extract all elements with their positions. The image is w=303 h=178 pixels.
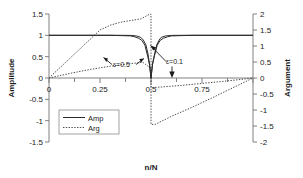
y-tick-label: -0.5 xyxy=(29,95,43,104)
y2-tick-label: 0.5 xyxy=(260,58,272,67)
chart-figure: 1.5 1 0.5 0 -0.5 -1 -1.5 Amplitude 2 1.5… xyxy=(0,0,303,178)
series-arg-eps-05 xyxy=(49,14,253,124)
y-tick-label: 1.5 xyxy=(32,10,44,19)
y2-tick-label: -2 xyxy=(260,138,268,147)
y-tick-label: 0 xyxy=(39,74,44,83)
y2-tick-label: -1 xyxy=(260,106,268,115)
y-tick-label: 1 xyxy=(39,31,44,40)
y2-tick-label: 1.5 xyxy=(260,26,272,35)
x-axis-title: n/N xyxy=(145,163,158,172)
y-tick-label: -1 xyxy=(36,117,44,126)
y2-tick-label: 2 xyxy=(260,10,265,19)
x-tick-label: 0.25 xyxy=(92,85,108,94)
y2-tick-label: -0.5 xyxy=(260,90,274,99)
annotation-label: ε=0.1 xyxy=(166,58,183,65)
x-tick-label: 0.75 xyxy=(194,85,210,94)
legend: Amp Arg xyxy=(59,110,119,134)
right-y-axis: 2 1.5 1 0.5 0 -0.5 -1 -1.5 -2 Argument xyxy=(253,10,292,147)
annotation-eps-01: ε=0.1 xyxy=(151,46,184,79)
y2-tick-label: 1 xyxy=(260,42,265,51)
annotation-label: ε=0.5 xyxy=(113,61,130,68)
y-axis-title: Amplitude xyxy=(7,58,16,98)
legend-label-amp: Amp xyxy=(88,114,103,123)
legend-label-arg: Arg xyxy=(88,124,100,133)
chart-canvas: 1.5 1 0.5 0 -0.5 -1 -1.5 Amplitude 2 1.5… xyxy=(0,0,303,178)
y2-axis-title: Argument xyxy=(283,59,292,97)
y-tick-label: -1.5 xyxy=(29,138,43,147)
y-tick-label: 0.5 xyxy=(32,53,44,62)
y2-tick-label: 0 xyxy=(260,74,265,83)
y2-tick-label: -1.5 xyxy=(260,122,274,131)
x-tick-label: 0 xyxy=(47,85,52,94)
left-y-axis: 1.5 1 0.5 0 -0.5 -1 -1.5 Amplitude xyxy=(7,10,49,147)
